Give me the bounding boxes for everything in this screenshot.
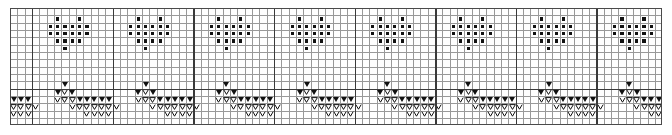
triangle-glyph — [172, 97, 178, 102]
open-triangle-icon — [76, 103, 83, 110]
open-triangle-glyph — [61, 89, 68, 95]
open-triangle-glyph — [340, 104, 347, 110]
dot-glyph — [71, 39, 74, 42]
bobble-dot-icon — [479, 37, 486, 44]
triangle-glyph — [143, 82, 149, 87]
dot-glyph — [547, 47, 550, 50]
filled-triangle-icon — [252, 96, 259, 103]
dot-glyph — [49, 32, 52, 35]
bobble-dot-icon — [208, 23, 215, 30]
bobble-dot-icon — [406, 30, 413, 37]
dot-glyph — [650, 32, 653, 35]
chart-grid — [10, 8, 662, 125]
vee-stitch-icon — [91, 111, 98, 118]
dot-glyph — [474, 32, 477, 35]
bobble-dot-icon — [552, 30, 559, 37]
triangle-glyph — [538, 90, 544, 95]
dot-glyph — [569, 32, 572, 35]
triangle-glyph — [590, 97, 596, 102]
open-triangle-icon — [303, 96, 310, 103]
vee-glyph — [575, 111, 582, 117]
filled-triangle-icon — [223, 81, 230, 88]
bobble-dot-icon — [245, 30, 252, 37]
dot-glyph — [85, 25, 88, 28]
dot-glyph — [628, 39, 631, 42]
open-triangle-glyph — [487, 104, 494, 110]
bobble-dot-icon — [135, 37, 142, 44]
filled-triangle-icon — [464, 81, 471, 88]
filled-triangle-icon — [655, 96, 662, 103]
open-triangle-glyph — [553, 97, 560, 103]
bobble-dot-icon — [530, 30, 537, 37]
triangle-glyph — [187, 97, 193, 102]
vee-glyph — [259, 111, 266, 117]
vee-glyph — [325, 111, 332, 117]
bobble-dot-icon — [54, 15, 61, 22]
bobble-dot-icon — [640, 30, 647, 37]
dot-glyph — [159, 25, 162, 28]
filled-triangle-icon — [296, 89, 303, 96]
filled-triangle-icon — [457, 89, 464, 96]
vee-glyph — [54, 97, 61, 103]
triangle-glyph — [326, 97, 332, 102]
vee-glyph — [252, 111, 259, 117]
vee-stitch-icon — [391, 103, 398, 110]
vee-stitch-icon — [17, 111, 24, 118]
dot-glyph — [239, 32, 242, 35]
triangle-glyph — [11, 97, 17, 102]
repeat-hline — [10, 89, 662, 90]
open-triangle-icon — [164, 103, 171, 110]
dot-glyph — [305, 39, 308, 42]
open-triangle-icon — [230, 96, 237, 103]
triangle-glyph — [216, 90, 222, 95]
triangle-glyph — [106, 97, 112, 102]
open-triangle-glyph — [157, 104, 164, 110]
bobble-dot-icon — [648, 30, 655, 37]
bobble-dot-icon — [142, 30, 149, 37]
dot-glyph — [210, 32, 213, 35]
open-triangle-glyph — [252, 104, 259, 110]
filled-triangle-icon — [105, 96, 112, 103]
triangle-glyph — [582, 97, 588, 102]
filled-triangle-icon — [582, 96, 589, 103]
bobble-dot-icon — [296, 37, 303, 44]
open-triangle-glyph — [171, 104, 178, 110]
dot-glyph — [386, 39, 389, 42]
bobble-dot-icon — [289, 30, 296, 37]
bobble-dot-icon — [618, 30, 625, 37]
dot-glyph — [459, 17, 462, 20]
dot-glyph — [247, 25, 250, 28]
dot-glyph — [540, 39, 543, 42]
dot-glyph — [562, 39, 565, 42]
filled-triangle-icon — [347, 96, 354, 103]
bobble-dot-icon — [479, 30, 486, 37]
vee-glyph — [98, 111, 105, 117]
open-triangle-icon — [318, 103, 325, 110]
triangle-glyph — [472, 90, 478, 95]
bobble-dot-icon — [149, 37, 156, 44]
bobble-dot-icon — [384, 23, 391, 30]
triangle-glyph — [560, 97, 566, 102]
bobble-dot-icon — [157, 30, 164, 37]
dot-glyph — [298, 39, 301, 42]
bobble-dot-icon — [223, 30, 230, 37]
bobble-dot-icon — [245, 23, 252, 30]
dot-glyph — [129, 32, 132, 35]
bobble-dot-icon — [618, 37, 625, 44]
vee-glyph — [553, 104, 560, 110]
vee-glyph — [428, 111, 435, 117]
open-triangle-glyph — [494, 104, 501, 110]
triangle-glyph — [99, 97, 105, 102]
bobble-dot-icon — [391, 23, 398, 30]
vee-stitch-icon — [113, 103, 120, 110]
open-triangle-glyph — [17, 104, 24, 110]
open-triangle-icon — [142, 89, 149, 96]
open-triangle-glyph — [472, 97, 479, 103]
bobble-dot-icon — [69, 30, 76, 37]
open-triangle-glyph — [61, 97, 68, 103]
bobble-dot-icon — [296, 30, 303, 37]
dot-glyph — [467, 25, 470, 28]
triangle-glyph — [25, 97, 31, 102]
vee-stitch-icon — [347, 111, 354, 118]
bobble-dot-icon — [398, 23, 405, 30]
